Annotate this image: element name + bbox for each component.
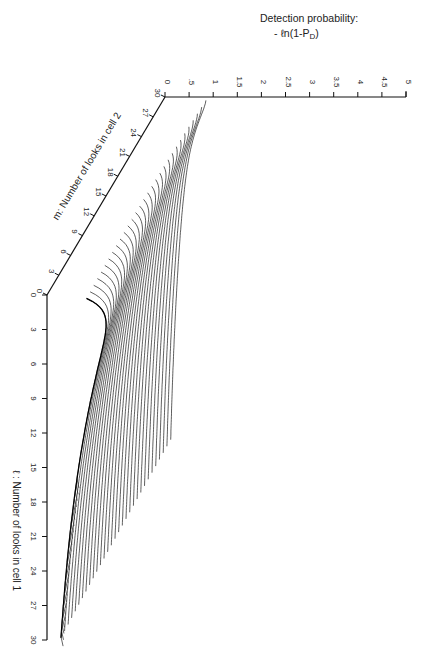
l-axis-tick-label: 12 bbox=[29, 429, 38, 438]
m-axis-tick-label: 27 bbox=[141, 108, 150, 117]
l-axis-label: ℓ : Number of looks in cell 1 bbox=[11, 470, 22, 591]
z-axis-tick-label: 5 bbox=[404, 80, 413, 85]
surface-hatch bbox=[62, 618, 64, 627]
m-axis-tick-label: 18 bbox=[106, 168, 115, 177]
surface-hatch bbox=[61, 637, 63, 646]
m-axis-tick bbox=[67, 253, 71, 255]
l-axis-tick-label: 0 bbox=[29, 293, 38, 298]
surface-hatch bbox=[69, 542, 71, 551]
z-axis-tick-label: 2.5 bbox=[284, 76, 293, 88]
m-axis-tick-label: 21 bbox=[118, 148, 127, 157]
m-axis-tick-label: 3 bbox=[47, 269, 56, 274]
m-axis-tick bbox=[78, 234, 82, 236]
l-axis-tick-label: 15 bbox=[29, 463, 38, 472]
surface-hatch bbox=[67, 561, 69, 570]
l-axis-tick-label: 6 bbox=[29, 362, 38, 367]
surface-plot-svg: 0369121518212427300369121518212427300.51… bbox=[0, 0, 428, 659]
m-axis-tick-label: 12 bbox=[82, 207, 91, 216]
z-axis-tick-label: 3.5 bbox=[332, 76, 341, 88]
l-axis-tick-label: 18 bbox=[29, 498, 38, 507]
l-axis-tick-label: 3 bbox=[29, 327, 38, 332]
surface-hatch bbox=[67, 568, 69, 577]
m-axis-tick-label: 24 bbox=[129, 128, 138, 137]
surface-hatch bbox=[66, 574, 68, 583]
m-axis-tick-label: 9 bbox=[70, 229, 79, 234]
z-axis-tick-label: 1 bbox=[211, 80, 220, 85]
surface-hatch bbox=[70, 536, 72, 545]
z-axis-tick-label: 4 bbox=[356, 80, 365, 85]
surface-plot-figure: Detection probability: - ℓn(1-PD) 036912… bbox=[0, 0, 428, 659]
l-axis-tick-label: 30 bbox=[29, 636, 38, 645]
surface-hatch bbox=[68, 555, 70, 564]
surface-hatch bbox=[69, 549, 71, 558]
m-axis-tick bbox=[55, 273, 59, 275]
z-axis-tick-label: 1.5 bbox=[235, 76, 244, 88]
m-axis-tick-label: 6 bbox=[59, 249, 68, 254]
l-axis-tick-label: 24 bbox=[29, 567, 38, 576]
m-axis-tick-label: 30 bbox=[153, 89, 162, 98]
surface-hatch bbox=[64, 593, 66, 602]
z-axis-tick-label: .5 bbox=[187, 79, 196, 86]
z-axis-tick-label: 4.5 bbox=[380, 76, 389, 88]
surface-hatch bbox=[65, 580, 67, 589]
l-axis-tick-label: 9 bbox=[29, 396, 38, 401]
surface-curve-m bbox=[148, 140, 181, 479]
surface-hatch bbox=[65, 587, 67, 596]
z-axis-tick-label: 0 bbox=[163, 80, 172, 85]
l-axis-tick-label: 27 bbox=[29, 601, 38, 610]
l-axis-tick-label: 21 bbox=[29, 532, 38, 541]
z-axis-tick-label: 2 bbox=[259, 80, 268, 85]
surface-hatch bbox=[71, 530, 73, 539]
m-axis-tick-label: 0 bbox=[35, 289, 44, 294]
z-axis-tick-label: 3 bbox=[308, 80, 317, 85]
m-axis-tick-label: 15 bbox=[94, 188, 103, 197]
